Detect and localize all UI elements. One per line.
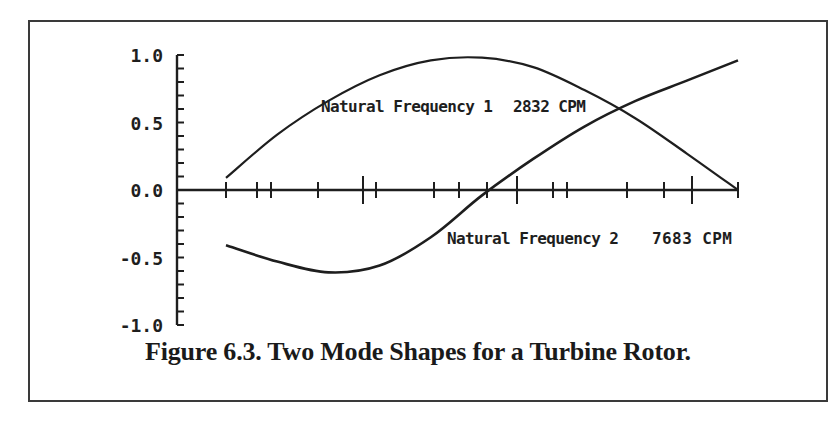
y-tick-label: 1.0 (130, 45, 163, 66)
y-tick-label: 0.0 (130, 180, 163, 201)
mode-1-label: Natural Frequency 1 (321, 97, 493, 116)
mode-1-curve (226, 57, 738, 190)
y-axis: 1.00.50.0-0.5-1.0 (120, 45, 184, 336)
y-tick-label: -1.0 (120, 315, 163, 336)
mode-1-frequency: 2832 CPM (513, 97, 586, 116)
mode-2-frequency: 7683 CPM (652, 229, 732, 248)
mode-2-label: Natural Frequency 2 (447, 229, 619, 248)
y-tick-label: 0.5 (130, 113, 163, 134)
x-axis (177, 176, 738, 204)
figure-caption: Figure 6.3. Two Mode Shapes for a Turbin… (0, 337, 836, 367)
y-tick-label: -0.5 (120, 248, 163, 269)
